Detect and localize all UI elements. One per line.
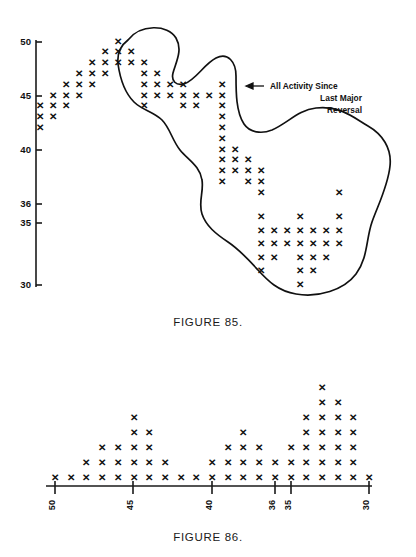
y-tick-label-45: 45 — [20, 90, 31, 101]
pf-mark-c15-p40: ✕ — [218, 144, 226, 155]
hist-mark-46-3: ✕ — [114, 442, 122, 453]
x-tick-label-50: 50 — [47, 500, 57, 510]
pf-mark-c18-p31: ✕ — [257, 265, 265, 276]
hist-mark-31-5: ✕ — [349, 412, 357, 423]
hist-mark-38-4: ✕ — [239, 427, 247, 438]
hist-mark-32-6: ✕ — [334, 397, 342, 408]
pf-mark-c24-p33: ✕ — [335, 238, 343, 249]
pf-mark-c9-p45: ✕ — [140, 90, 148, 101]
pf-mark-c6-p48: ✕ — [101, 57, 109, 68]
pf-mark-c6-p49: ✕ — [101, 46, 109, 57]
hist-mark-30-1: ✕ — [365, 472, 373, 483]
x-tick-label-35: 35 — [283, 500, 293, 510]
pf-mark-c23-p33: ✕ — [322, 238, 330, 249]
pf-mark-c1-p44: ✕ — [36, 100, 44, 111]
pf-mark-c15-p43: ✕ — [218, 111, 226, 122]
hist-mark-45-2: ✕ — [130, 457, 138, 468]
pf-mark-c20-p33: ✕ — [283, 238, 291, 249]
pf-mark-c21-p30: ✕ — [296, 279, 304, 290]
hist-mark-32-3: ✕ — [334, 442, 342, 453]
figure-85-chart: 50 45 40 36 35 30 All Activity Since Las… — [0, 0, 416, 310]
y-tick-label-30: 30 — [20, 279, 31, 290]
pf-mark-c9-p44: ✕ — [140, 100, 148, 111]
pf-mark-c9-p47: ✕ — [140, 68, 148, 79]
pf-mark-c1-p42: ✕ — [36, 122, 44, 133]
pf-mark-c9-p46: ✕ — [140, 79, 148, 90]
pf-mark-c24-p34: ✕ — [335, 225, 343, 236]
pf-mark-c8-p48: ✕ — [127, 57, 135, 68]
annotation-line-3: Reversal — [327, 105, 362, 115]
pf-mark-c2-p45: ✕ — [49, 90, 57, 101]
pf-mark-c16-p39: ✕ — [231, 154, 239, 165]
pf-mark-c3-p44: ✕ — [62, 100, 70, 111]
hist-mark-48-1: ✕ — [82, 472, 90, 483]
pf-mark-c10-p47: ✕ — [153, 68, 161, 79]
y-tick-label-35: 35 — [20, 217, 31, 228]
pf-mark-c23-p32: ✕ — [322, 252, 330, 263]
hist-mark-35-2: ✕ — [287, 457, 295, 468]
hist-mark-33-3: ✕ — [318, 442, 326, 453]
hist-mark-35-3: ✕ — [287, 442, 295, 453]
y-tick-label-36: 36 — [20, 198, 31, 209]
y-tick-label-50: 50 — [20, 36, 31, 47]
pf-mark-c15-p37: ✕ — [218, 176, 226, 187]
pf-mark-c19-p33: ✕ — [270, 238, 278, 249]
pf-mark-c13-p44: ✕ — [192, 100, 200, 111]
pf-mark-c4-p45: ✕ — [75, 90, 83, 101]
pf-mark-c17-p37: ✕ — [244, 176, 252, 187]
hist-mark-45-4: ✕ — [130, 427, 138, 438]
hist-mark-44-4: ✕ — [145, 427, 153, 438]
hist-mark-48-2: ✕ — [82, 457, 90, 468]
pf-mark-c16-p40: ✕ — [231, 144, 239, 155]
hist-mark-43-2: ✕ — [161, 457, 169, 468]
hist-mark-32-1: ✕ — [334, 472, 342, 483]
pf-mark-c2-p43: ✕ — [49, 111, 57, 122]
pf-mark-c17-p38: ✕ — [244, 165, 252, 176]
pf-mark-c18-p38: ✕ — [257, 165, 265, 176]
pf-mark-c5-p47: ✕ — [88, 68, 96, 79]
hist-mark-31-3: ✕ — [349, 442, 357, 453]
pf-mark-c7-p50: ✕ — [114, 36, 122, 47]
pf-mark-c16-p38: ✕ — [231, 165, 239, 176]
hist-mark-31-4: ✕ — [349, 427, 357, 438]
left-arrow-head-icon — [246, 83, 253, 89]
pf-mark-c22-p33: ✕ — [309, 238, 317, 249]
pf-mark-c3-p45: ✕ — [62, 90, 70, 101]
x-tick-label-30: 30 — [361, 500, 371, 510]
hist-mark-35-1: ✕ — [287, 472, 295, 483]
pf-mark-c15-p46: ✕ — [218, 79, 226, 90]
figure-85-y-axis: 50 45 40 36 35 30 — [20, 36, 42, 290]
hist-mark-34-5: ✕ — [302, 412, 310, 423]
pf-mark-c5-p46: ✕ — [88, 79, 96, 90]
x-tick-label-45: 45 — [125, 500, 135, 510]
hist-mark-40-1: ✕ — [208, 472, 216, 483]
hist-mark-49-1: ✕ — [67, 472, 75, 483]
hist-mark-37-2: ✕ — [255, 457, 263, 468]
pf-mark-c14-p45: ✕ — [205, 90, 213, 101]
hist-mark-32-5: ✕ — [334, 412, 342, 423]
pf-mark-c18-p34: ✕ — [257, 225, 265, 236]
pf-mark-c20-p34: ✕ — [283, 225, 291, 236]
pf-mark-c12-p46: ✕ — [179, 79, 187, 90]
pf-mark-c21-p34: ✕ — [296, 225, 304, 236]
hist-mark-39-3: ✕ — [224, 442, 232, 453]
pf-mark-c22-p32: ✕ — [309, 252, 317, 263]
pf-mark-c15-p42: ✕ — [218, 122, 226, 133]
hist-mark-45-3: ✕ — [130, 442, 138, 453]
x-tick-label-36: 36 — [267, 500, 277, 510]
pf-mark-c15-p41: ✕ — [218, 133, 226, 144]
pf-mark-c12-p45: ✕ — [179, 90, 187, 101]
pf-mark-c21-p33: ✕ — [296, 238, 304, 249]
hist-mark-36-2: ✕ — [271, 457, 279, 468]
pf-mark-c7-p48: ✕ — [114, 57, 122, 68]
hist-mark-33-4: ✕ — [318, 427, 326, 438]
pf-mark-c24-p35: ✕ — [335, 211, 343, 222]
pf-mark-c12-p44: ✕ — [179, 100, 187, 111]
hist-mark-33-1: ✕ — [318, 472, 326, 483]
hist-mark-31-2: ✕ — [349, 457, 357, 468]
pf-mark-c4-p46: ✕ — [75, 79, 83, 90]
hist-mark-40-2: ✕ — [208, 457, 216, 468]
hist-mark-33-7: ✕ — [318, 382, 326, 393]
pf-mark-c15-p39: ✕ — [218, 154, 226, 165]
figure-86-chart: ✕✕✕✕✕✕✕✕✕✕✕✕✕✕✕✕✕✕✕✕✕✕✕✕✕✕✕✕✕✕✕✕✕✕✕✕✕✕✕✕… — [0, 350, 416, 550]
